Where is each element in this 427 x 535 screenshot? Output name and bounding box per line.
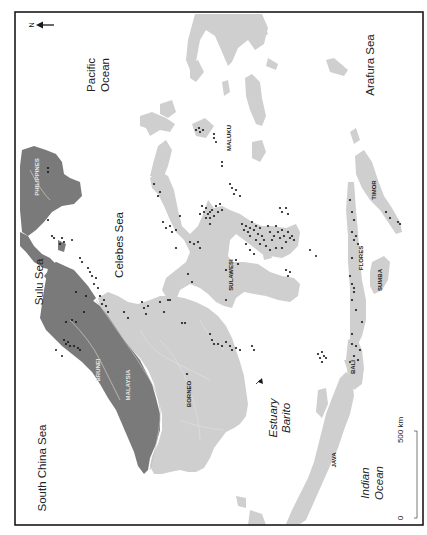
land-maluku-2 [192,118,214,138]
region-label-java: JAVA [331,452,337,468]
region-label-brunei: BRUNEI [95,358,101,381]
estuary-label-2: Barito [280,402,292,433]
region-label-sumba: SUMBA [377,268,383,291]
land-sulawesi-north-arm [150,140,172,176]
sea-label-pacific-2: Ocean [99,58,111,92]
sea-label-sulu: Sulu Sea [33,258,45,305]
north-arrow-head [36,22,43,29]
sea-label-indian-1: Indian [359,467,371,498]
north-label: N [28,22,35,27]
map-canvas: N Pacific Ocean Arafura Sea Sulu Sea Cel… [0,0,427,535]
sea-label-arafura: Arafura Sea [364,34,376,96]
region-label-borneo: BORNEO [186,381,192,408]
land-aru [326,58,348,76]
land-island-north [190,60,204,82]
land-small-a [222,80,230,96]
sea-label-celebes: Celebes Sea [113,211,125,277]
sea-label-pacific-1: Pacific [85,58,97,92]
land-philippines-mindanao [20,146,82,236]
land-small-b [266,58,278,70]
land-small-timor [350,128,360,144]
land-buru [252,140,266,162]
land-timor [355,150,402,234]
land-bangka [236,496,246,508]
north-arrow: N [28,22,54,29]
land-sulawesi [150,170,300,308]
estuary-label-1: Estuary [267,397,279,437]
region-label-philippines: PHILIPPINES [34,158,40,195]
landmasses [20,14,402,525]
region-label-malaysia: MALAYSIA [125,369,131,400]
scale-bar-line [414,431,417,518]
land-sumatra-tip [248,510,266,525]
region-label-maluku: MALUKU [226,125,232,151]
sea-label-indian-2: Ocean [373,466,385,500]
region-label-timor: TIMOR [371,180,377,200]
scale-bar-start: 0 [396,515,405,520]
estuary-barito-annotation: Estuary Barito [256,378,292,438]
region-label-bali: BALI [350,360,356,374]
region-label-sulawesi: SULAWESI [228,259,234,291]
land-seram [245,74,266,126]
scale-bar-end: 500 km [396,417,405,444]
scale-bar: 0 500 km [396,417,417,521]
sea-label-south-china: South China Sea [36,424,48,512]
land-maluku-1 [160,100,176,118]
region-label-flores: FLORES [358,246,364,270]
